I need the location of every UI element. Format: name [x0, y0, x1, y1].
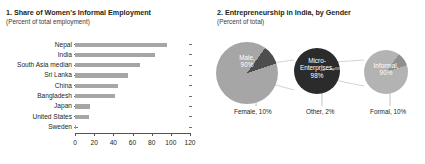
bar-track: [75, 40, 208, 50]
bar-category-label: Bangladesh: [0, 93, 75, 100]
bar-value: [75, 94, 115, 98]
bar-row: China: [0, 81, 212, 91]
x-tick-label: 120: [178, 139, 202, 146]
row-tick-right: [189, 96, 192, 97]
panel-womens-informal-employment: 1. Share of Women's Informal Employment …: [0, 0, 212, 164]
pie-enterprise-label-line2: Enterprises,: [300, 64, 334, 71]
bar-row: Japan: [0, 102, 212, 112]
x-tick: [171, 133, 172, 136]
x-tick: [113, 133, 114, 136]
bar-category-label: India: [0, 52, 75, 59]
bar-value: [75, 73, 128, 77]
pie-formality-inside-label: Informal, 90%: [366, 62, 406, 77]
row-tick-right: [189, 85, 192, 86]
bar-track: [75, 122, 208, 132]
callout-other: Other, 2%: [306, 108, 334, 115]
bar-value: [75, 115, 89, 119]
x-tick: [94, 133, 95, 136]
pie-enterprise-label-line3: 98%: [311, 72, 324, 79]
bar-track: [75, 71, 208, 81]
row-tick-right: [189, 75, 192, 76]
bar-category-label: China: [0, 83, 75, 90]
callout-formal: Formal, 10%: [370, 108, 406, 115]
bar-track: [75, 50, 208, 60]
row-tick-right: [189, 116, 192, 117]
pie-enterprise-inside-label: Micro- Enterprises, 98%: [296, 57, 338, 79]
row-tick-right: [189, 65, 192, 66]
bar-track: [75, 102, 208, 112]
pie-gender-label-line1: Male,: [239, 54, 255, 61]
pie-gender-label-line2: 90%: [241, 61, 254, 68]
bar-track: [75, 92, 208, 102]
bar-track: [75, 112, 208, 122]
bar-row: Nepal: [0, 40, 212, 50]
row-tick-right: [189, 44, 192, 45]
pie-gender: [216, 42, 278, 104]
x-tick: [152, 133, 153, 136]
panel2-subtitle: (Percent of total): [217, 18, 264, 25]
bar-value: [75, 104, 90, 108]
bar-category-label: South Asia median: [0, 62, 75, 69]
bar-row: United States: [0, 112, 212, 122]
callout-female: Female, 10%: [234, 108, 272, 115]
x-tick: [75, 133, 76, 136]
bar-category-label: United States: [0, 114, 75, 121]
bar-row: Sri Lanka: [0, 71, 212, 81]
panel1-subtitle: (Percent of total employment): [6, 18, 90, 25]
bar-value: [75, 53, 155, 57]
x-tick: [133, 133, 134, 136]
bar-category-label: Sweden: [0, 124, 75, 131]
pie-formality-label-line2: 90%: [380, 69, 393, 76]
bar-value: [75, 84, 118, 88]
row-tick-right: [189, 106, 192, 107]
bar-track: [75, 61, 208, 71]
bar-row: Bangladesh: [0, 92, 212, 102]
pie-gender-inside-label: Male, 90%: [226, 54, 268, 69]
row-tick-right: [189, 127, 192, 128]
bar-category-label: Nepal: [0, 42, 75, 49]
row-tick-right: [189, 54, 192, 55]
panel2-title: 2. Entrepreneurship in India, by Gender: [217, 8, 351, 17]
bar-category-label: Sri Lanka: [0, 72, 75, 79]
bar-category-label: Japan: [0, 103, 75, 110]
bar-track: [75, 81, 208, 91]
bar-value: [75, 43, 167, 47]
bar-value: [75, 125, 76, 129]
bar-row: India: [0, 50, 212, 60]
pie-enterprise-label-line1: Micro-: [308, 57, 326, 64]
pie-chart-group: Male, 90% Female, 10% Micro- Enterprises…: [212, 38, 425, 164]
bar-row: Sweden: [0, 122, 212, 132]
x-tick: [190, 133, 191, 136]
panel1-title: 1. Share of Women's Informal Employment: [6, 8, 151, 17]
panel-entrepreneurship-india: 2. Entrepreneurship in India, by Gender …: [212, 0, 425, 164]
pie-formality-label-line1: Informal,: [374, 62, 399, 69]
bar-value: [75, 63, 140, 67]
bar-row: South Asia median: [0, 61, 212, 71]
